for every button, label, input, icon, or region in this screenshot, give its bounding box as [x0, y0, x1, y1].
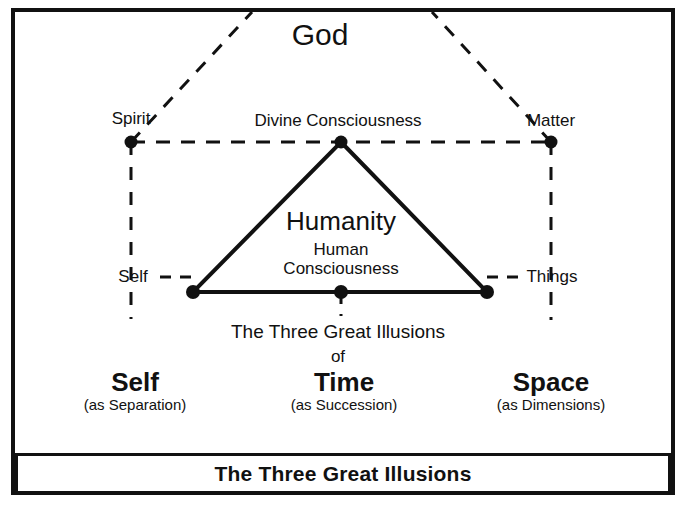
label-human: Human: [314, 241, 369, 258]
illusion-qualifier-time: (as Succession): [291, 397, 398, 412]
label-self-node: Self: [118, 268, 147, 285]
label-divine-consciousness: Divine Consciousness: [254, 112, 421, 129]
node-time: [334, 285, 348, 299]
diagram-page: God Spirit Divine Consciousness Matter S…: [0, 0, 689, 507]
illusion-name-self: Self: [111, 369, 159, 395]
node-matter: [545, 136, 558, 149]
label-things-node: Things: [526, 268, 577, 285]
illusion-qualifier-self: (as Separation): [84, 397, 187, 412]
illusion-name-time: Time: [314, 369, 374, 395]
caption-of: of: [331, 348, 345, 365]
illusion-qualifier-space: (as Dimensions): [497, 397, 605, 412]
label-consciousness: Consciousness: [283, 260, 398, 277]
node-self: [186, 285, 200, 299]
node-divine-consciousness: [335, 136, 348, 149]
label-spirit: Spirit: [112, 110, 151, 127]
node-space: [480, 285, 494, 299]
label-god: God: [292, 20, 349, 50]
node-spirit: [125, 136, 138, 149]
label-humanity: Humanity: [286, 208, 396, 234]
label-matter: Matter: [527, 112, 575, 129]
illusion-name-space: Space: [513, 369, 590, 395]
bottom-banner: The Three Great Illusions: [15, 453, 671, 495]
caption-three-great-illusions: The Three Great Illusions: [231, 322, 445, 341]
bottom-banner-text: The Three Great Illusions: [214, 462, 471, 486]
